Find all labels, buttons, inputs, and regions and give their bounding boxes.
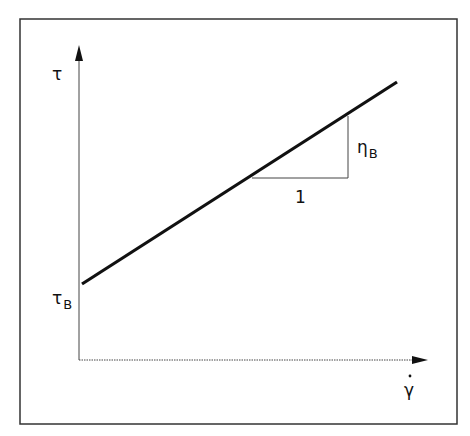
run-label: 1 — [295, 187, 306, 207]
y-axis-label: τ — [52, 64, 62, 84]
yield-stress-label: τB — [52, 288, 72, 312]
x-axis-arrow-icon — [412, 356, 428, 364]
diagram-canvas: τ τB ηB 1 γ — [0, 0, 470, 436]
frame-border — [20, 19, 457, 424]
x-axis-label: γ — [404, 380, 414, 400]
slope-triangle — [252, 116, 348, 178]
slope-label: ηB — [357, 137, 378, 161]
x-axis-dot-icon — [409, 375, 412, 378]
bingham-line — [82, 82, 397, 284]
y-axis-arrow-icon — [75, 45, 83, 61]
